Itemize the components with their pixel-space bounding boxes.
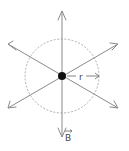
field-label-group: B (65, 130, 72, 144)
central-charge (58, 72, 66, 80)
field-label: B (65, 133, 71, 143)
arrowhead-upper-left-icon (8, 41, 16, 50)
magnetic-field-diagram: r B (0, 0, 129, 151)
radius-indicator: r (67, 72, 99, 82)
radius-label: r (79, 72, 83, 82)
